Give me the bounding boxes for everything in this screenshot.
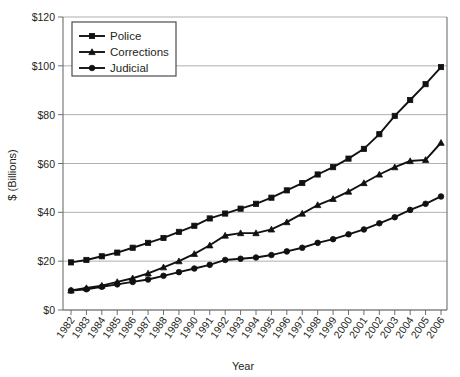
y-tick-label: $80	[37, 109, 55, 121]
data-point	[84, 257, 89, 262]
y-tick-label: $120	[32, 11, 56, 23]
chart-canvas: $0$20$40$60$80$100$120 19821983198419851…	[0, 0, 460, 377]
data-point	[130, 245, 135, 250]
data-point	[68, 260, 73, 265]
data-point	[330, 236, 336, 242]
data-point	[269, 195, 274, 200]
x-axis-title: Year	[232, 360, 255, 372]
data-point	[99, 284, 105, 290]
data-point	[377, 221, 383, 227]
data-point	[392, 214, 398, 220]
data-point	[68, 288, 74, 294]
data-point	[423, 201, 429, 207]
data-point	[161, 235, 166, 240]
line-chart: $0$20$40$60$80$100$120 19821983198419851…	[0, 0, 460, 377]
data-point	[284, 188, 289, 193]
data-point	[238, 256, 244, 262]
y-axis-group: $0$20$40$60$80$100$120	[32, 11, 63, 316]
data-point	[330, 165, 335, 170]
data-point	[392, 113, 397, 118]
legend-label: Judicial	[110, 62, 148, 74]
data-point	[300, 180, 305, 185]
x-tick-label: 2006	[423, 314, 446, 340]
data-point	[223, 211, 228, 216]
data-point	[269, 252, 275, 258]
data-point	[99, 254, 104, 259]
data-point	[253, 255, 259, 261]
data-point	[207, 216, 212, 221]
data-point	[238, 206, 243, 211]
data-point	[346, 232, 352, 238]
legend-marker	[89, 65, 95, 71]
data-point	[161, 273, 167, 279]
data-point	[361, 227, 367, 233]
legend-marker	[89, 33, 94, 38]
data-point	[315, 172, 320, 177]
data-point	[115, 250, 120, 255]
data-point	[377, 132, 382, 137]
data-point	[438, 194, 444, 200]
data-point	[176, 269, 182, 275]
data-point	[346, 156, 351, 161]
data-point	[114, 282, 120, 288]
chart-legend: PoliceCorrectionsJudicial	[72, 22, 176, 76]
y-tick-label: $0	[43, 304, 55, 316]
data-point	[407, 207, 413, 213]
data-point	[130, 279, 136, 285]
legend-label: Police	[110, 30, 141, 42]
series-judicial	[68, 194, 444, 294]
series-group	[68, 64, 444, 293]
y-tick-label: $20	[37, 255, 55, 267]
data-point	[299, 245, 305, 251]
data-point	[145, 277, 151, 283]
data-point	[315, 240, 321, 246]
data-point	[253, 201, 258, 206]
data-point	[408, 97, 413, 102]
data-point	[176, 229, 181, 234]
series-line	[71, 196, 441, 290]
data-point	[361, 146, 366, 151]
y-tick-label: $40	[37, 206, 55, 218]
data-point	[192, 266, 198, 272]
legend-label: Corrections	[110, 46, 169, 58]
data-point	[84, 286, 90, 292]
series-corrections	[68, 140, 444, 294]
data-point	[192, 223, 197, 228]
data-point	[145, 240, 150, 245]
data-point	[284, 249, 290, 255]
data-point	[207, 262, 213, 268]
y-tick-label: $100	[32, 60, 56, 72]
data-point	[438, 64, 443, 69]
y-axis-title: $ (Billions)	[6, 149, 18, 200]
data-point	[222, 257, 228, 263]
data-point	[438, 140, 444, 146]
y-tick-label: $60	[37, 158, 55, 170]
data-point	[423, 82, 428, 87]
series-line	[71, 143, 441, 291]
